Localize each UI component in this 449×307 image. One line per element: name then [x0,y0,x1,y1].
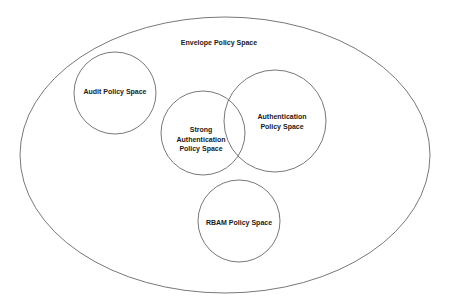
strong-authentication-policy-space-label: Strong Authentication Policy Space [177,125,226,154]
envelope-policy-space-label: Envelope Policy Space [181,38,257,48]
strong-label-line-3: Policy Space [177,144,226,154]
audit-label-line: Audit Policy Space [83,87,146,97]
strong-label-line-2: Authentication [177,134,226,144]
authentication-label-line-2: Policy Space [258,121,307,131]
authentication-policy-space-label: Authentication Policy Space [258,112,307,131]
strong-label-line-1: Strong [177,125,226,135]
audit-policy-space-label: Audit Policy Space [83,87,146,97]
policy-space-diagram: Envelope Policy Space Audit Policy Space… [0,0,449,307]
rbam-label-line: RBAM Policy Space [206,218,272,228]
authentication-label-line-1: Authentication [258,112,307,122]
envelope-policy-space-ellipse [20,17,430,293]
rbam-policy-space-label: RBAM Policy Space [206,218,272,228]
